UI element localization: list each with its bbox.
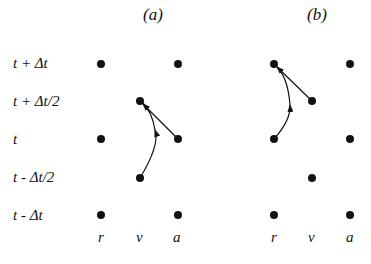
panel-b-arrows bbox=[274, 67, 312, 139]
panel-a-arrows bbox=[140, 103, 178, 178]
grid-diagram bbox=[0, 0, 371, 264]
panel-a bbox=[97, 60, 182, 219]
panel-b bbox=[270, 60, 354, 219]
